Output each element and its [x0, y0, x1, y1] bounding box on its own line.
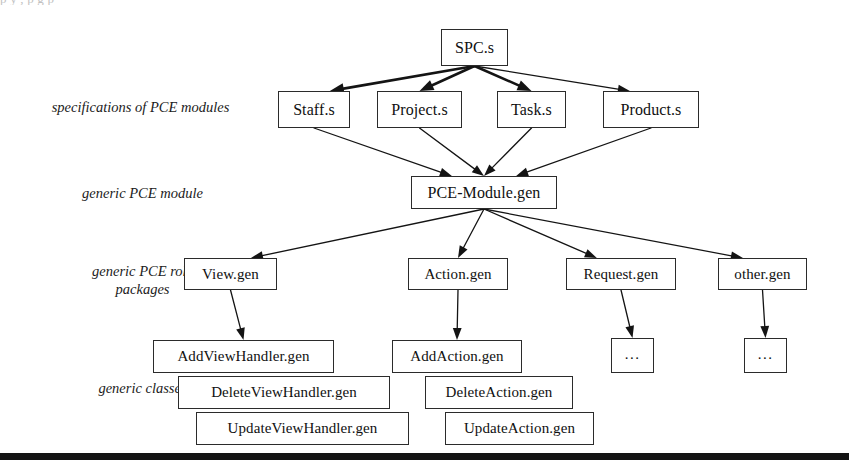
node-request[interactable]: Request.gen: [566, 258, 676, 290]
node-label: PCE-Module.gen: [428, 184, 541, 202]
node-otherdots[interactable]: ...: [744, 338, 787, 373]
node-label: DeleteViewHandler.gen: [211, 384, 357, 401]
edge-arrowhead-icon: [453, 328, 462, 340]
node-label: View.gen: [202, 266, 259, 283]
node-label: Project.s: [391, 101, 447, 119]
node-label: Request.gen: [584, 266, 659, 283]
node-label: Task.s: [511, 101, 552, 119]
edge-arrowhead-icon: [760, 326, 769, 338]
node-updateaction[interactable]: UpdateAction.gen: [445, 412, 594, 445]
node-label: ...: [625, 346, 641, 363]
node-view[interactable]: View.gen: [184, 258, 277, 290]
edge-line: [457, 290, 458, 331]
node-project[interactable]: Project.s: [377, 91, 462, 128]
node-label: other.gen: [734, 266, 790, 283]
edge-arrowhead-icon: [516, 168, 529, 176]
edge-line: [763, 290, 765, 329]
edge-arrowhead-icon: [625, 325, 634, 338]
edge-arrowhead-icon: [420, 80, 435, 91]
node-label: Action.gen: [424, 266, 491, 283]
node-addaction[interactable]: AddAction.gen: [392, 340, 522, 373]
page-bottom-rule: [0, 453, 849, 460]
node-product[interactable]: Product.s: [603, 91, 699, 128]
edge-arrowhead-icon: [439, 168, 452, 176]
row-label-generic-module: generic PCE module: [60, 184, 225, 202]
node-deleteview[interactable]: DeleteViewHandler.gen: [178, 376, 390, 409]
node-label: ...: [758, 346, 774, 363]
edge-arrowhead-icon: [458, 245, 468, 258]
edge-line: [525, 128, 651, 173]
node-label: UpdateViewHandler.gen: [228, 420, 378, 437]
edge-arrowhead-icon: [584, 249, 597, 258]
node-updateview[interactable]: UpdateViewHandler.gen: [196, 412, 409, 445]
edge-line: [314, 128, 443, 173]
node-label: SPC.s: [455, 39, 494, 57]
edge-line: [621, 290, 630, 329]
edge-line: [475, 66, 621, 90]
edge-arrowhead-icon: [472, 165, 484, 176]
edge-line: [484, 209, 734, 256]
node-label: UpdateAction.gen: [464, 420, 575, 437]
node-addview[interactable]: AddViewHandler.gen: [153, 340, 334, 373]
node-label: DeleteAction.gen: [446, 384, 553, 401]
node-label: AddAction.gen: [410, 348, 503, 365]
node-spc[interactable]: SPC.s: [441, 29, 508, 66]
edge-line: [462, 209, 484, 250]
node-task[interactable]: Task.s: [497, 91, 566, 128]
node-pcemodule[interactable]: PCE-Module.gen: [411, 176, 557, 209]
diagram-page: p y , p g p specifications of PCE module…: [0, 0, 849, 472]
node-deleteaction[interactable]: DeleteAction.gen: [425, 376, 573, 409]
node-staff[interactable]: Staff.s: [278, 91, 350, 128]
edge-arrowhead-icon: [517, 80, 532, 91]
edge-line: [260, 209, 484, 256]
edge-line: [420, 128, 477, 171]
node-requestdots[interactable]: ...: [611, 338, 654, 373]
edge-line: [231, 290, 242, 331]
edge-line: [484, 209, 589, 254]
edge-line: [475, 66, 522, 87]
edge-arrowhead-icon: [236, 327, 245, 340]
edge-line: [341, 66, 475, 89]
row-label-specs: specifications of PCE modules: [28, 98, 253, 116]
node-other[interactable]: other.gen: [718, 258, 807, 290]
node-label: Product.s: [621, 101, 682, 119]
node-label: AddViewHandler.gen: [177, 348, 309, 365]
node-action[interactable]: Action.gen: [408, 258, 508, 290]
node-label: Staff.s: [293, 101, 335, 119]
edge-line: [490, 128, 531, 170]
